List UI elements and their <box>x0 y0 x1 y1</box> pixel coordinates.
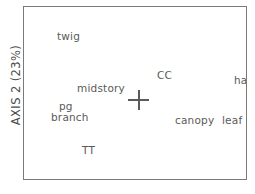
origin-cross-vertical-bar <box>138 90 140 110</box>
point-label-twig: twig <box>57 30 80 42</box>
point-label-midstory: midstory <box>77 82 125 94</box>
point-label-ha: ha <box>234 74 247 86</box>
origin-cross-horizontal-bar <box>128 99 149 101</box>
point-label-leaf: leaf <box>222 114 242 126</box>
ordination-figure: AXIS 2 (23%) twigmidstoryCChapgbranchcan… <box>0 0 255 194</box>
point-label-canopy: canopy <box>175 114 214 126</box>
y-axis-title: AXIS 2 (23%) <box>8 37 24 133</box>
plot-area: twigmidstoryCChapgbranchcanopyleafTT <box>23 6 247 180</box>
point-label-cc: CC <box>157 69 172 81</box>
point-label-branch: branch <box>51 111 89 123</box>
point-label-tt: TT <box>82 144 95 156</box>
